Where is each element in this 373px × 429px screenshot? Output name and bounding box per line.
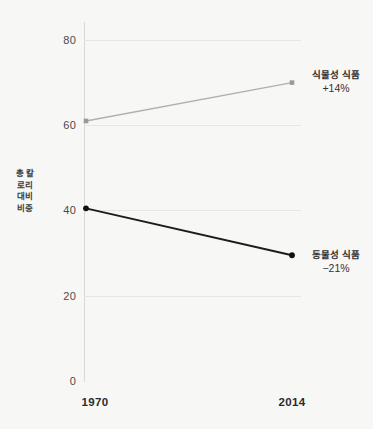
animal-line-segment: [86, 208, 292, 255]
series-animal-line: [83, 205, 295, 258]
plant-point-2014: [290, 80, 295, 85]
plant-point-1970: [84, 119, 89, 124]
annotation-plant-delta: +14%: [300, 81, 372, 96]
annotation-plant-label: 식물성 식품: [300, 68, 372, 81]
slope-chart: 총 칼로리 대비 비중 80 60 40 20 0 식물성 식품 +14: [0, 0, 373, 429]
annotation-animal-delta: −21%: [300, 261, 372, 276]
annotation-animal-label: 동물성 식품: [300, 248, 372, 261]
annotation-plant: 식물성 식품 +14%: [300, 68, 372, 96]
plant-line-segment: [86, 83, 292, 121]
series-layer: [0, 0, 373, 429]
annotation-animal: 동물성 식품 −21%: [300, 248, 372, 276]
animal-point-1970: [83, 205, 89, 211]
x-tick-2014: 2014: [262, 396, 322, 408]
x-tick-1970: 1970: [65, 396, 125, 408]
series-plant-line: [84, 80, 295, 123]
animal-point-2014: [289, 252, 295, 258]
